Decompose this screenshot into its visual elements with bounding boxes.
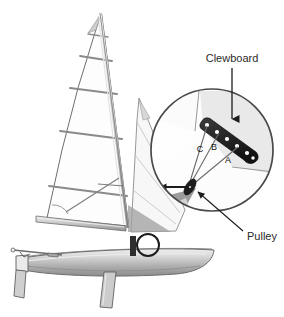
line-label-b: B [211,142,217,152]
bowsprit-cleat [48,253,58,257]
clewboard-hole-5 [245,151,249,155]
rudder [14,270,26,298]
sailboat-diagram: C B A Clewboard Pulley [0,0,284,317]
mast-foot-block [130,236,136,256]
pulley-sheave [189,186,191,188]
pulley-label: Pulley [247,230,277,242]
bowsprit-tip [11,248,15,252]
figure-root: C B A Clewboard Pulley [0,0,284,317]
clewboard-hole-6 [251,156,254,159]
line-label-a: A [225,155,231,165]
magnifier-group: C B A [151,89,274,212]
clewboard-hole-3 [225,137,229,141]
line-label-c: C [197,144,204,154]
transom [16,255,28,272]
clewboard-label: Clewboard [206,52,259,64]
